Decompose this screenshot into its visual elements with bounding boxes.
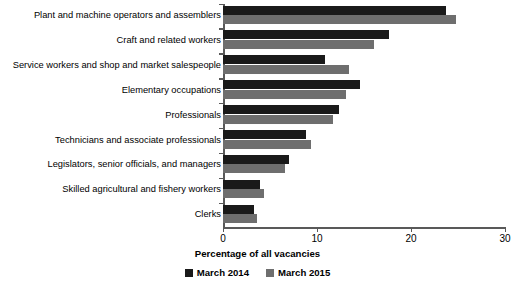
category-label: Clerks <box>195 208 221 220</box>
category-tick <box>219 28 223 29</box>
category-label: Professionals <box>165 109 221 121</box>
x-axis-title: Percentage of all vacancies <box>0 248 515 259</box>
bar-march-2014 <box>223 55 325 64</box>
x-axis-tick <box>317 227 318 232</box>
bar-march-2014 <box>223 105 339 114</box>
bar-march-2015 <box>223 115 333 124</box>
category-label: Technicians and associate professionals <box>55 134 221 146</box>
legend-label: March 2014 <box>197 267 249 278</box>
bar-march-2014 <box>223 130 306 139</box>
bar-march-2015 <box>223 15 456 24</box>
bar-march-2014 <box>223 30 389 39</box>
category-tick <box>219 78 223 79</box>
category-tick <box>219 128 223 129</box>
bar-march-2015 <box>223 164 285 173</box>
x-axis-tick <box>223 227 224 232</box>
bar-group <box>223 130 505 149</box>
category-label: Plant and machine operators and assemble… <box>34 9 221 21</box>
legend-label: March 2015 <box>278 267 330 278</box>
bar-group <box>223 105 505 124</box>
bar-group <box>223 80 505 99</box>
category-label: Skilled agricultural and fishery workers <box>62 183 221 195</box>
bar-march-2015 <box>223 214 257 223</box>
x-axis-tick-label: 0 <box>220 233 226 244</box>
x-axis-tick <box>411 227 412 232</box>
bar-march-2014 <box>223 80 360 89</box>
category-tick <box>219 103 223 104</box>
bar-chart: Plant and machine operators and assemble… <box>0 0 515 291</box>
category-label: Craft and related workers <box>117 34 221 46</box>
category-tick <box>219 53 223 54</box>
bar-group <box>223 30 505 49</box>
x-axis-tick <box>505 227 506 232</box>
bar-march-2015 <box>223 189 264 198</box>
x-axis-tick-label: 30 <box>499 233 510 244</box>
chart-legend: March 2014March 2015 <box>0 267 515 278</box>
category-tick <box>219 153 223 154</box>
x-axis-tick-label: 10 <box>311 233 322 244</box>
bar-march-2014 <box>223 180 260 189</box>
legend-item: March 2015 <box>266 267 330 278</box>
legend-swatch-icon <box>266 269 274 277</box>
category-label: Service workers and shop and market sale… <box>13 59 221 71</box>
bar-march-2014 <box>223 205 254 214</box>
bar-march-2015 <box>223 40 374 49</box>
bar-march-2015 <box>223 65 349 74</box>
bar-march-2014 <box>223 6 446 15</box>
bar-march-2015 <box>223 140 311 149</box>
bar-group <box>223 180 505 199</box>
category-label: Legislators, senior officials, and manag… <box>48 158 221 170</box>
legend-item: March 2014 <box>185 267 249 278</box>
bar-group <box>223 155 505 174</box>
x-axis-tick-label: 20 <box>405 233 416 244</box>
plot-area <box>223 4 505 228</box>
bar-group <box>223 55 505 74</box>
legend-swatch-icon <box>185 269 193 277</box>
bar-march-2015 <box>223 90 346 99</box>
bar-group <box>223 6 505 25</box>
bar-group <box>223 205 505 224</box>
category-tick <box>219 4 223 5</box>
category-tick <box>219 178 223 179</box>
category-label: Elementary occupations <box>122 84 221 96</box>
category-tick <box>219 203 223 204</box>
bar-march-2014 <box>223 155 289 164</box>
